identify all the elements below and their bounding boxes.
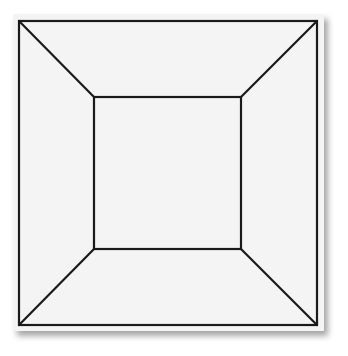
diagonal-bottom-left — [19, 249, 94, 325]
diagonal-top-left — [19, 21, 94, 97]
inner-square — [94, 97, 241, 249]
diagram-stage — [0, 0, 348, 356]
square-frustum-diagram — [0, 0, 348, 356]
diagonal-bottom-right — [241, 249, 317, 325]
diagonal-top-right — [241, 21, 317, 97]
